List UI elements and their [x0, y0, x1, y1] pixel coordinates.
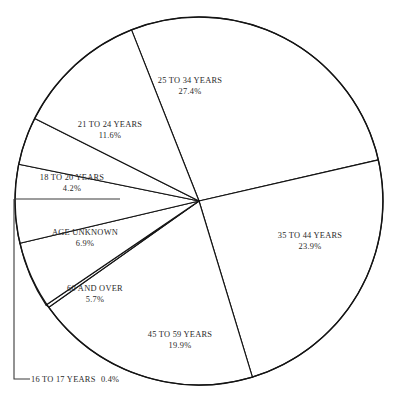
slice-label-name: 25 TO 34 YEARS [130, 75, 250, 86]
slice-label-21-to-24: 21 TO 24 YEARS 11.6% [50, 119, 170, 142]
slice-label-percent: 11.6% [50, 130, 170, 141]
slice-label-percent: 4.2% [12, 183, 132, 194]
slice-label-18-to-20: 18 TO 20 YEARS 4.2% [12, 172, 132, 195]
slice-label-name: 60 AND OVER [35, 283, 155, 294]
pie-chart-svg [0, 0, 396, 416]
slice-label-name: 16 TO 17 YEARS [31, 375, 96, 384]
slice-label-45-to-59: 45 TO 59 YEARS 19.9% [120, 329, 240, 352]
slice-label-age-unknown: AGE UNKNOWN 6.9% [25, 227, 145, 250]
slice-label-percent: 5.7% [35, 294, 155, 305]
slice-label-percent: 27.4% [130, 86, 250, 97]
slice-label-percent: 19.9% [120, 340, 240, 351]
slice-label-25-to-34: 25 TO 34 YEARS 27.4% [130, 75, 250, 98]
slice-label-percent: 23.9% [250, 241, 370, 252]
slice-label-name: AGE UNKNOWN [25, 227, 145, 238]
slice-label-60-and-over: 60 AND OVER 5.7% [35, 283, 155, 306]
slice-label-name: 45 TO 59 YEARS [120, 329, 240, 340]
slice-label-16-to-17: 16 TO 17 YEARS 0.4% [31, 374, 181, 385]
slice-label-name: 21 TO 24 YEARS [50, 119, 170, 130]
slice-label-name: 35 TO 44 YEARS [250, 230, 370, 241]
slice-label-35-to-44: 35 TO 44 YEARS 23.9% [250, 230, 370, 253]
slice-label-name: 18 TO 20 YEARS [12, 172, 132, 183]
slice-label-percent: 6.9% [25, 238, 145, 249]
pie-chart: 25 TO 34 YEARS 27.4% 35 TO 44 YEARS 23.9… [0, 0, 396, 416]
slice-label-percent: 0.4% [101, 375, 119, 384]
